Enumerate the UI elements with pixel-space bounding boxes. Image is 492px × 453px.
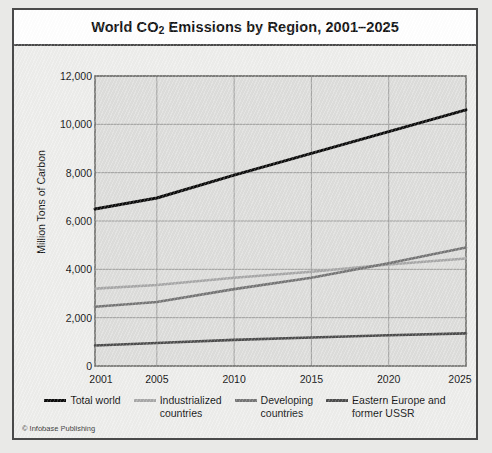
legend-item[interactable]: Total world [44, 394, 120, 407]
legend-swatch-icon [235, 399, 257, 402]
credit-line: © Infobase Publishing [22, 424, 95, 433]
legend-item-label: Developing countries [261, 394, 314, 419]
plot-area [14, 46, 480, 442]
chart-body: Million Tons of Carbon 02,0004,0006,0008… [14, 46, 476, 438]
page-title: World CO2 Emissions by Region, 2001–2025 [91, 19, 399, 35]
legend-item-label: Industrialized countries [160, 394, 222, 419]
title-subscript: 2 [159, 24, 165, 36]
legend-item-label: Total world [70, 394, 120, 407]
legend-item[interactable]: Industrialized countries [134, 394, 222, 419]
legend-item-label: Eastern Europe and former USSR [352, 394, 445, 419]
title-band: World CO2 Emissions by Region, 2001–2025 [14, 10, 476, 46]
title-suffix: Emissions by Region, 2001–2025 [164, 19, 398, 35]
legend-swatch-icon [134, 399, 156, 402]
chart-legend: Total worldIndustrialized countriesDevel… [20, 394, 470, 419]
title-prefix: World CO [91, 19, 158, 35]
legend-item[interactable]: Eastern Europe and former USSR [326, 394, 445, 419]
legend-swatch-icon [44, 399, 66, 402]
legend-swatch-icon [326, 399, 348, 402]
legend-item[interactable]: Developing countries [235, 394, 314, 419]
chart-figure: World CO2 Emissions by Region, 2001–2025… [12, 8, 478, 440]
